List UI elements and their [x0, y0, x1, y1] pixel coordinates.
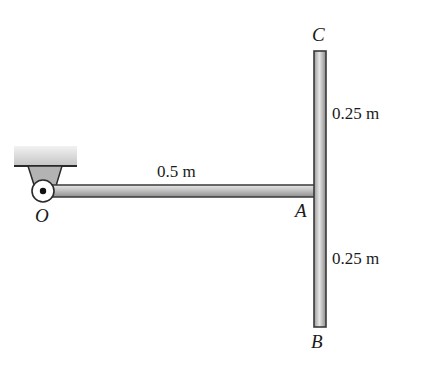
- dimension-OA: 0.5 m: [157, 162, 196, 182]
- dimension-AB: 0.25 m: [332, 249, 379, 269]
- label-point-B: B: [311, 331, 323, 353]
- rod-BC: [314, 51, 326, 327]
- label-point-A: A: [295, 200, 307, 222]
- t-bar-diagram: [0, 0, 422, 371]
- pin-joint-O: [32, 180, 54, 202]
- label-point-C: C: [312, 24, 325, 46]
- ground-hatch: [14, 146, 77, 166]
- rod-OA: [46, 185, 320, 197]
- label-point-O: O: [35, 205, 49, 227]
- dimension-AC: 0.25 m: [332, 104, 379, 124]
